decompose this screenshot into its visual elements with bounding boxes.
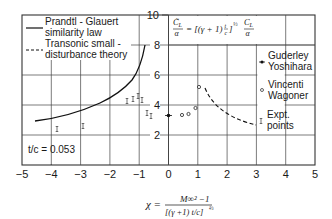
- y-tick-6: 6: [154, 69, 160, 81]
- x-tick-1: 1: [195, 168, 201, 180]
- x-axis-formula: χ = M∞² −1 [(γ +1) t/c] ⅔: [145, 194, 214, 217]
- y-tick-8: 8: [154, 39, 160, 51]
- x-tick-2: 2: [224, 168, 230, 180]
- svg-text:L: L: [178, 22, 183, 28]
- legend-ex-label-1: Expt.: [267, 109, 290, 120]
- x-tick-0: 0: [165, 168, 171, 180]
- x-tick-3: 3: [253, 168, 259, 180]
- chart: 10 8 6 4 2 −5 −4 −3 −2 −1 0 1 2 3 4 5: [0, 0, 332, 219]
- legend-vw-label-2: Wagoner: [268, 90, 309, 101]
- legend-pg-label-1: Prandtl - Glauert: [45, 16, 119, 27]
- svg-text:⅔: ⅔: [209, 205, 214, 211]
- legend-gy-label-2: Yoshihara: [268, 61, 313, 72]
- experimental-points: [56, 94, 153, 132]
- x-tick-m1: −1: [133, 168, 146, 180]
- legend-open-circle-icon: [261, 89, 264, 92]
- x-tick-5: 5: [312, 168, 318, 180]
- thickness-ratio-annotation: t/c = 0.053: [28, 144, 75, 155]
- guderley-yoshihara-point: [165, 114, 172, 118]
- x-tick-m5: −5: [16, 168, 29, 180]
- legend-ts-label-1: Transonic small -: [45, 38, 121, 49]
- svg-text:[(γ +1) t/c]: [(γ +1) t/c]: [165, 207, 203, 217]
- x-tick-4: 4: [283, 168, 289, 180]
- transonic-theory-curve: [205, 88, 256, 125]
- svg-text:= [(γ + 1): = [(γ + 1): [186, 24, 222, 34]
- y-tick-10: 10: [147, 9, 159, 21]
- legend-ts-label-2: disturbance theory: [45, 49, 127, 60]
- x-axis: −5 −4 −3 −2 −1 0 1 2 3 4 5: [16, 168, 318, 180]
- svg-text:M∞² −1: M∞² −1: [179, 194, 209, 204]
- legend-ex-label-2: points: [267, 120, 294, 131]
- legend-pg-label-2: similarity law: [45, 27, 102, 38]
- legend-vw-label-1: Vincenti: [268, 79, 303, 90]
- svg-text:⅓: ⅓: [233, 21, 238, 27]
- svg-text:L: L: [249, 22, 254, 28]
- y-tick-2: 2: [154, 129, 160, 141]
- marker-legend: Guderley Yoshihara Vincenti Wagoner Expt…: [259, 50, 313, 131]
- x-tick-m2: −2: [104, 168, 117, 180]
- legend-gy-label-1: Guderley: [268, 50, 309, 61]
- svg-text:c: c: [225, 30, 228, 36]
- svg-text:χ =: χ =: [145, 198, 161, 210]
- x-tick-m3: −3: [74, 168, 87, 180]
- y-tick-4: 4: [154, 99, 160, 111]
- x-tick-m4: −4: [45, 168, 58, 180]
